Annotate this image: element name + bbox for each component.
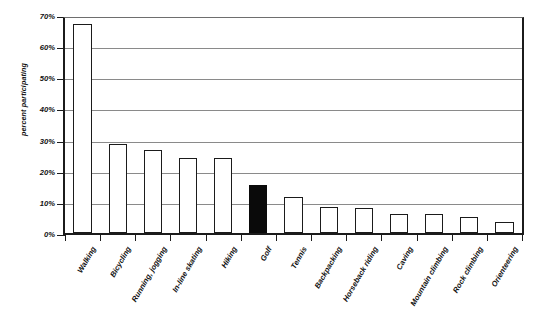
x-tick-label: Bicycling [109,245,134,279]
bar-slot [206,17,241,233]
x-tick-label: Horseback riding [341,245,380,303]
bar-slot [65,17,100,233]
bar [495,222,513,233]
bar-slot [417,17,452,233]
bar [320,207,338,233]
x-tick-label-wrap: Horseback riding [341,245,380,303]
y-tick-label: 60% [11,43,55,52]
x-tick-label-wrap: Tennis [289,245,309,270]
x-tick [241,235,242,241]
y-tick-label: 20% [11,168,55,177]
x-tick-label: Mountain climbing [408,245,449,308]
y-tick-label: 10% [11,199,55,208]
x-tick-label: Rock climbing [451,245,485,294]
y-tick-label: 50% [11,74,55,83]
bar-slot [311,17,346,233]
x-tick-label: Tennis [289,245,309,270]
x-tick [381,235,382,241]
bar-slot [381,17,416,233]
x-tick-label: Walking [76,245,98,275]
bar [284,197,302,233]
bar [425,214,443,233]
bar-chart: percent participating 0%10%20%30%40%50%6… [0,0,551,328]
x-tick [417,235,418,241]
x-tick [452,235,453,241]
x-tick-label: In-line skating [170,245,203,294]
x-tick-label-wrap: Running, jogging [129,245,168,304]
bar [249,185,267,233]
x-tick-label: Orienteering [490,245,520,289]
bar-series [65,17,522,233]
x-tick-label: Golf [258,245,273,263]
y-tick-label: 70% [11,12,55,21]
y-tick-label: 40% [11,105,55,114]
bar [109,144,127,233]
y-tick-0 [57,235,65,236]
x-tick-label-wrap: In-line skating [170,245,203,294]
bar [73,24,91,233]
bar-slot [100,17,135,233]
x-tick [135,235,136,241]
x-tick-label-wrap: Bicycling [109,245,134,279]
x-tick-label: Caving [394,245,414,271]
bar [355,208,373,233]
x-tick-label-wrap: Hiking [219,245,238,270]
x-tick-label-wrap: Caving [394,245,414,271]
x-tick [487,235,488,241]
bar [144,150,162,233]
y-tick-label: 30% [11,137,55,146]
bar [390,214,408,233]
x-tick [65,235,66,241]
y-tick-label: 0% [11,230,55,239]
bar [179,158,197,233]
x-tick-label-wrap: Rock climbing [451,245,485,294]
x-tick-label-wrap: Backpacking [313,245,344,290]
x-tick-label-wrap: Golf [258,245,273,263]
bar-slot [452,17,487,233]
x-tick-label-wrap: Walking [76,245,98,275]
x-tick [522,235,523,241]
x-tick [170,235,171,241]
bar-slot [276,17,311,233]
bar [460,217,478,233]
x-tick [311,235,312,241]
x-tick [206,235,207,241]
bar-slot [241,17,276,233]
x-tick-label-wrap: Mountain climbing [408,245,449,308]
bar-slot [170,17,205,233]
x-tick-label: Running, jogging [129,245,168,304]
bar [214,158,232,233]
x-tick [100,235,101,241]
x-tick-label: Backpacking [313,245,344,290]
x-tick-label-wrap: Orienteering [490,245,520,289]
x-tick-label: Hiking [219,245,238,270]
x-tick [346,235,347,241]
bar-slot [487,17,522,233]
bar-slot [135,17,170,233]
x-tick [276,235,277,241]
bar-slot [346,17,381,233]
